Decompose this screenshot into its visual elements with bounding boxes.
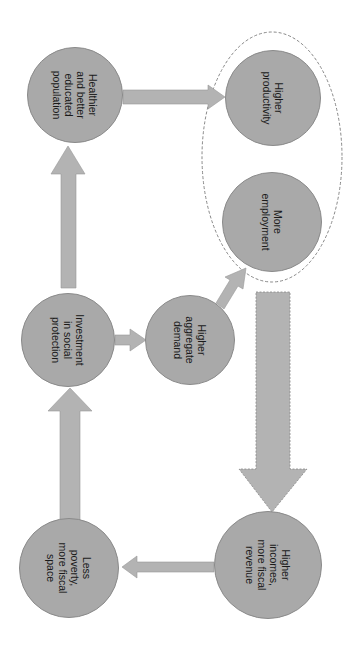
arrow-demand-to-employment [216,268,246,309]
social-protection-cycle-diagram: Healthier and better educated population… [0,0,361,652]
node-higher-incomes: Higher incomes, more fiscal revenue [214,511,322,619]
node-more-employment: More employment [222,172,322,272]
arrow-healthier-to-productivity [123,85,225,109]
node-higher-productivity: Higher productivity [225,50,321,146]
node-label: Higher incomes, more fiscal revenue [244,540,292,591]
arrow-employment-to-incomes [239,292,307,512]
arrow-investment-to-healthier [51,146,85,288]
node-less-poverty: Less poverty, more fiscal space [19,518,119,618]
node-label: Investment in social protection [50,314,86,365]
arrow-incomes-to-poverty [122,556,214,578]
node-label: Less poverty, more fiscal space [45,543,93,594]
node-label: Higher aggregate demand [172,316,208,363]
arrow-poverty-to-investment [48,388,92,520]
arrow-investment-to-demand [115,329,146,351]
node-label: Higher productivity [261,71,285,124]
node-higher-aggregate-demand: Higher aggregate demand [145,295,235,385]
node-label: More employment [260,193,284,250]
node-label: Healthier and better educated population [51,71,99,119]
node-investment-social-protection: Investment in social protection [21,293,115,387]
node-healthier-population: Healthier and better educated population [27,47,123,143]
